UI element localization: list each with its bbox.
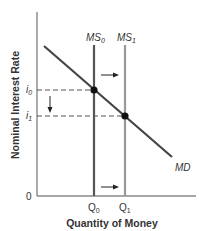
q0-tick-label: Q0 <box>88 202 100 214</box>
ms0-label: MS0 <box>86 32 105 44</box>
origin-label: 0 <box>26 191 32 202</box>
money-market-chart: MS0 MS1 MD i0 i1 Q0 Q1 0 Quantity of Mon… <box>0 0 203 231</box>
md-curve <box>44 46 172 157</box>
shift-arrow-top-icon <box>101 73 119 78</box>
ms1-label: MS1 <box>117 32 136 44</box>
equilibrium-point-0 <box>90 86 97 93</box>
q1-tick-label: Q1 <box>119 202 131 214</box>
y-axis-title: Nominal Interest Rate <box>9 51 21 159</box>
md-label: MD <box>175 162 191 173</box>
rate-fall-arrow-icon <box>48 96 53 113</box>
i1-tick-label: i1 <box>26 110 32 122</box>
shift-arrow-bottom-icon <box>101 185 119 190</box>
x-axis-title: Quantity of Money <box>66 217 158 229</box>
equilibrium-point-1 <box>121 112 128 119</box>
i0-tick-label: i0 <box>26 84 32 96</box>
